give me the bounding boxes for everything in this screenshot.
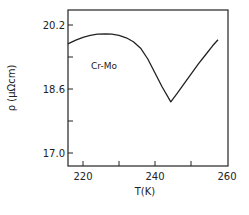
y-tick-label: 18.6	[43, 84, 65, 95]
y-tick-label: 20.2	[43, 20, 65, 31]
x-axis-ticks: 220240260	[73, 161, 236, 182]
alloy-annotation: Cr-Mo	[91, 61, 117, 71]
y-tick-label: 17.0	[43, 148, 65, 159]
y-axis-label: ρ (μΩcm)	[6, 65, 17, 112]
x-tick-label: 260	[217, 171, 236, 182]
x-tick-label: 220	[73, 171, 92, 182]
x-tick-label: 240	[145, 171, 164, 182]
x-axis-label: T(K)	[134, 186, 156, 197]
plot-frame	[68, 10, 228, 166]
chart: 17.018.620.2 220240260 Cr-Mo T(K) ρ (μΩc…	[0, 0, 249, 215]
